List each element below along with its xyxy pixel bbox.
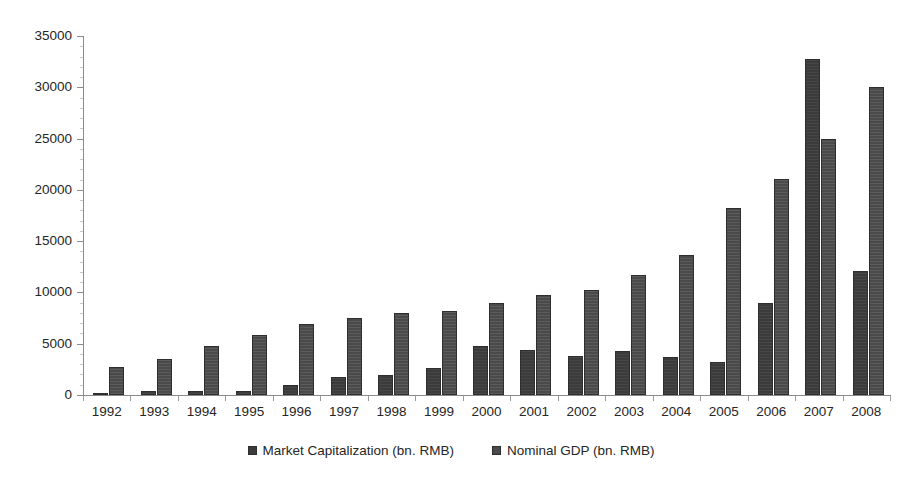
bar-group (605, 36, 652, 395)
x-axis-tick (178, 396, 179, 401)
bar-group (273, 36, 320, 395)
x-axis-tick-label: 1998 (368, 405, 415, 419)
bar-group (843, 36, 890, 395)
x-axis-tick-label: 2007 (795, 405, 842, 419)
x-axis-tick (463, 396, 464, 401)
x-axis-tick (653, 396, 654, 401)
legend-swatch-icon (492, 446, 501, 455)
bar-nominal-gdp (299, 324, 314, 395)
bar-group (748, 36, 795, 395)
bar-market-capitalization (568, 356, 583, 395)
bar-market-capitalization (236, 391, 251, 395)
x-axis-tick (510, 396, 511, 401)
bar-market-capitalization (520, 350, 535, 395)
bar-nominal-gdp (631, 275, 646, 395)
x-axis-tick-label: 2004 (653, 405, 700, 419)
x-axis-tick-label: 2003 (605, 405, 652, 419)
x-axis-tick-label: 2006 (748, 405, 795, 419)
bar-group (463, 36, 510, 395)
bar-market-capitalization (710, 362, 725, 395)
y-axis-tick-label: 20000 (2, 183, 72, 197)
bar-nominal-gdp (442, 311, 457, 395)
x-axis-line (83, 395, 891, 396)
y-axis-tick-labels: 05000100001500020000250003000035000 (0, 0, 72, 487)
bar-group (83, 36, 130, 395)
bar-nominal-gdp (204, 346, 219, 395)
bar-market-capitalization (331, 377, 346, 395)
bar-group (700, 36, 747, 395)
x-axis-tick-label: 1997 (320, 405, 367, 419)
x-axis-tick (843, 396, 844, 401)
bar-group (653, 36, 700, 395)
bar-nominal-gdp (584, 290, 599, 395)
x-axis-tick (130, 396, 131, 401)
legend-item-label: Market Capitalization (bn. RMB) (263, 444, 454, 458)
bar-nominal-gdp (536, 295, 551, 395)
bar-group (415, 36, 462, 395)
legend-item[interactable]: Nominal GDP (bn. RMB) (492, 444, 655, 458)
bar-nominal-gdp (157, 359, 172, 395)
x-axis-tick-label: 2005 (700, 405, 747, 419)
bar-nominal-gdp (347, 318, 362, 395)
x-axis-tick-label: 2001 (510, 405, 557, 419)
x-axis-tick (225, 396, 226, 401)
x-axis-tick-label: 1992 (83, 405, 130, 419)
bar-market-capitalization (805, 59, 820, 395)
x-axis-tick (890, 396, 891, 401)
x-axis-tick-label: 1996 (273, 405, 320, 419)
bar-market-capitalization (473, 346, 488, 395)
x-axis-tick-label: 1994 (178, 405, 225, 419)
bar-nominal-gdp (821, 139, 836, 395)
y-axis-tick-label: 0 (2, 388, 72, 402)
bar-nominal-gdp (109, 367, 124, 395)
bar-chart: 05000100001500020000250003000035000 1992… (0, 0, 902, 487)
bar-nominal-gdp (679, 255, 694, 395)
bar-group (368, 36, 415, 395)
x-axis-tick-label: 1993 (130, 405, 177, 419)
bar-market-capitalization (188, 391, 203, 395)
x-axis-tick-label: 1999 (415, 405, 462, 419)
x-axis-tick (700, 396, 701, 401)
bar-group (225, 36, 272, 395)
plot-area (83, 36, 890, 395)
bar-market-capitalization (93, 393, 108, 395)
bar-market-capitalization (426, 368, 441, 395)
legend-item-label: Nominal GDP (bn. RMB) (507, 444, 655, 458)
x-axis-tick (605, 396, 606, 401)
x-axis-tick (320, 396, 321, 401)
x-axis-tick (795, 396, 796, 401)
x-axis-tick (558, 396, 559, 401)
bar-market-capitalization (853, 271, 868, 395)
x-axis-tick (748, 396, 749, 401)
y-axis-tick-label: 15000 (2, 234, 72, 248)
x-axis-tick (83, 396, 84, 401)
bar-nominal-gdp (869, 87, 884, 395)
bar-group (795, 36, 842, 395)
legend-swatch-icon (248, 446, 257, 455)
y-axis-tick-label: 35000 (2, 29, 72, 43)
x-axis-tick (273, 396, 274, 401)
bar-market-capitalization (378, 375, 393, 395)
bar-market-capitalization (663, 357, 678, 395)
x-axis-tick (368, 396, 369, 401)
y-axis-tick-label: 5000 (2, 337, 72, 351)
x-axis-tick-label: 2002 (558, 405, 605, 419)
y-axis-tick-label: 10000 (2, 285, 72, 299)
x-axis-tick-label: 2008 (843, 405, 890, 419)
x-axis-tick-label: 2000 (463, 405, 510, 419)
bar-nominal-gdp (726, 208, 741, 395)
bar-market-capitalization (283, 385, 298, 395)
bar-market-capitalization (615, 351, 630, 395)
x-axis-tick (415, 396, 416, 401)
legend-item[interactable]: Market Capitalization (bn. RMB) (248, 444, 454, 458)
bar-nominal-gdp (252, 335, 267, 395)
y-axis-tick-label: 25000 (2, 132, 72, 146)
bar-market-capitalization (141, 391, 156, 395)
x-axis-tick-label: 1995 (225, 405, 272, 419)
bar-group (130, 36, 177, 395)
bar-group (320, 36, 367, 395)
bar-nominal-gdp (394, 313, 409, 395)
bar-group (178, 36, 225, 395)
chart-legend: Market Capitalization (bn. RMB)Nominal G… (0, 444, 902, 458)
bar-group (558, 36, 605, 395)
